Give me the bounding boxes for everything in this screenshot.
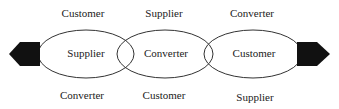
top-label-3: Converter	[212, 7, 292, 19]
bottom-label-3: Supplier	[215, 91, 295, 103]
left-arrow-icon	[9, 42, 40, 66]
bottom-label-1: Converter	[42, 89, 122, 101]
top-label-1: Customer	[43, 7, 123, 19]
ellipse-label-3: Customer	[214, 47, 294, 59]
value-chain-diagram: Customer Supplier Converter Supplier Con…	[0, 0, 339, 109]
ellipse-label-1: Supplier	[46, 47, 126, 59]
top-label-2: Supplier	[124, 7, 204, 19]
bottom-label-2: Customer	[124, 89, 204, 101]
ellipse-label-2: Converter	[126, 47, 206, 59]
right-arrow-icon	[297, 42, 330, 66]
